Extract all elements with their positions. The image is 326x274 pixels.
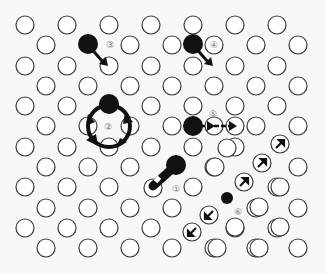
lattice-atom	[100, 178, 118, 196]
lattice-atom	[58, 178, 76, 196]
lattice-atom	[268, 16, 286, 34]
lattice-atom	[289, 239, 307, 257]
lattice-atom	[271, 178, 289, 196]
lattice-atom	[121, 239, 139, 257]
label-1: ①	[172, 184, 180, 194]
lattice-atom	[184, 57, 202, 75]
lattice-atom	[37, 239, 55, 257]
lattice-atom	[226, 57, 244, 75]
lattice-atom	[250, 198, 268, 216]
lattice-atom	[226, 218, 244, 236]
lattice-atom	[37, 199, 55, 217]
diffusing-atom	[221, 192, 233, 204]
lattice-atom	[79, 239, 97, 257]
lattice-atom	[37, 77, 55, 95]
lattice-atom	[58, 16, 76, 34]
lattice-atoms	[16, 16, 307, 257]
lattice-atom	[250, 239, 268, 257]
lattice-atom	[100, 16, 118, 34]
lattice-atom	[163, 36, 181, 54]
label-6: ⑥	[234, 207, 242, 217]
lattice-atom	[16, 138, 34, 156]
diffusing-atom	[166, 155, 186, 175]
lattice-atom	[289, 36, 307, 54]
lattice-atom	[268, 97, 286, 115]
lattice-atom	[289, 158, 307, 176]
sw-arrow-atoms	[183, 206, 218, 241]
lattice-atom	[289, 199, 307, 217]
lattice-atom	[142, 16, 160, 34]
lattice-atom	[184, 138, 202, 156]
diffusing-atom	[78, 34, 98, 54]
lattice-atom	[142, 57, 160, 75]
lattice-atom	[226, 16, 244, 34]
diffusing-atom	[99, 94, 119, 114]
lattice-atom	[184, 178, 202, 196]
label-3: ③	[106, 40, 114, 50]
diffusing-atom	[183, 34, 203, 54]
lattice-atom	[16, 16, 34, 34]
lattice-atom	[37, 158, 55, 176]
lattice-atom	[163, 77, 181, 95]
lattice-atom	[142, 219, 160, 237]
lattice-atom	[247, 36, 265, 54]
lattice-atom	[16, 57, 34, 75]
lattice-atom	[289, 77, 307, 95]
lattice-atom	[163, 117, 181, 135]
lattice-atom	[16, 219, 34, 237]
label-4: ④	[210, 40, 218, 50]
lattice-atom	[58, 97, 76, 115]
label-2: ②	[104, 122, 112, 132]
mechanism-1: ①	[144, 155, 186, 197]
lattice-atom	[206, 158, 224, 176]
lattice-atom	[79, 199, 97, 217]
lattice-atom	[163, 199, 181, 217]
lattice-atom	[268, 57, 286, 75]
lattice-atom	[100, 219, 118, 237]
lattice-atom	[37, 36, 55, 54]
lattice-atom	[184, 16, 202, 34]
lattice-atom	[163, 239, 181, 257]
lattice-atom	[121, 77, 139, 95]
lattice-atom	[247, 117, 265, 135]
lattice-atom	[289, 117, 307, 135]
lattice-atom	[58, 219, 76, 237]
lattice-atom	[247, 77, 265, 95]
lattice-atom	[121, 36, 139, 54]
lattice-atom	[16, 178, 34, 196]
lattice-atom	[184, 97, 202, 115]
lattice-atom	[121, 158, 139, 176]
lattice-atom	[79, 158, 97, 176]
lattice-atom	[58, 57, 76, 75]
diffusing-atom	[183, 116, 203, 136]
lattice-atom	[271, 218, 289, 236]
lattice-atom	[37, 117, 55, 135]
lattice-atom	[142, 138, 160, 156]
label-5: ⑤	[209, 109, 217, 119]
lattice-atom	[208, 239, 226, 257]
lattice-atom	[218, 139, 236, 157]
diffusion-mechanism-diagram: ③ ④ ② ⑤ ①	[0, 0, 326, 274]
lattice-atom	[142, 97, 160, 115]
lattice-atom	[79, 77, 97, 95]
lattice-atom	[226, 97, 244, 115]
lattice-atom	[58, 138, 76, 156]
lattice-atom	[121, 199, 139, 217]
lattice-atom	[16, 97, 34, 115]
lattice-atom	[205, 77, 223, 95]
